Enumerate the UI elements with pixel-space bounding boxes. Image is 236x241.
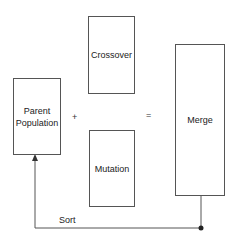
mutation-box: Mutation (89, 130, 135, 207)
diagram-canvas: Parent Population + Crossover Mutation =… (0, 0, 236, 241)
equals-operator: = (146, 110, 151, 120)
parent-population-box: Parent Population (13, 78, 61, 155)
merge-box: Merge (175, 44, 225, 196)
mutation-label: Mutation (95, 163, 130, 175)
crossover-label: Crossover (91, 49, 132, 61)
sort-edge-label: Sort (59, 215, 76, 225)
crossover-box: Crossover (88, 16, 135, 94)
plus-operator: + (72, 112, 77, 122)
parent-population-label: Parent Population (14, 105, 60, 129)
arrowhead-icon (32, 154, 38, 161)
merge-label: Merge (187, 114, 213, 126)
junction-dot-icon (199, 226, 204, 231)
